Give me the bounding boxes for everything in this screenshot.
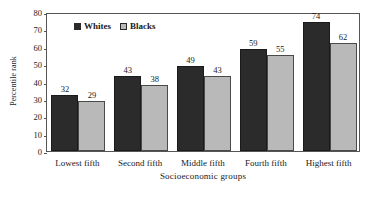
plot-area: 32294338494359557462 WhitesBlacks bbox=[46, 13, 360, 152]
bar-wrap: 38 bbox=[141, 14, 168, 151]
bar-wrap: 29 bbox=[78, 14, 105, 151]
bar-value-label: 62 bbox=[330, 32, 357, 42]
bar-value-label: 43 bbox=[204, 65, 231, 75]
bar-wrap: 74 bbox=[303, 14, 330, 151]
bar-value-label: 32 bbox=[51, 84, 78, 94]
legend-label: Whites bbox=[84, 22, 111, 31]
y-tick-label: 20 bbox=[22, 112, 42, 122]
bar-blacks-1[interactable] bbox=[141, 85, 168, 151]
y-tick-label: 30 bbox=[22, 95, 42, 105]
y-tick-mark bbox=[44, 14, 47, 15]
legend-entry-whites[interactable]: Whites bbox=[74, 22, 111, 31]
x-tick-label-4: Highest fifth bbox=[297, 157, 360, 169]
bar-blacks-3[interactable] bbox=[267, 55, 294, 151]
bar-wrap: 55 bbox=[267, 14, 294, 151]
bar-group: 7462 bbox=[303, 14, 357, 151]
x-axis-title: Socioeconomic groups bbox=[46, 170, 360, 182]
bar-group: 4943 bbox=[177, 14, 231, 151]
y-axis-title: Percentile rank bbox=[8, 26, 20, 136]
bar-whites-2[interactable] bbox=[177, 66, 204, 151]
bar-whites-4[interactable] bbox=[303, 22, 330, 151]
bar-value-label: 49 bbox=[177, 55, 204, 65]
bar-wrap: 43 bbox=[114, 14, 141, 151]
y-tick-label: 50 bbox=[22, 60, 42, 70]
bar-group: 4338 bbox=[114, 14, 168, 151]
bar-value-label: 43 bbox=[114, 65, 141, 75]
plot-inner: 32294338494359557462 WhitesBlacks bbox=[47, 14, 359, 151]
y-tick-mark bbox=[44, 84, 47, 85]
y-tick-label: 40 bbox=[22, 78, 42, 88]
bar-whites-0[interactable] bbox=[51, 95, 78, 151]
bar-wrap: 59 bbox=[240, 14, 267, 151]
bar-wrap: 62 bbox=[330, 14, 357, 151]
y-tick-mark bbox=[44, 136, 47, 137]
x-axis-tick-labels: Lowest fifthSecond fifthMiddle fifthFour… bbox=[46, 157, 360, 171]
bar-value-label: 55 bbox=[267, 44, 294, 54]
bar-value-label: 74 bbox=[303, 11, 330, 21]
light-gray-square-swatch bbox=[120, 23, 127, 30]
legend-entry-blacks[interactable]: Blacks bbox=[120, 22, 156, 31]
bar-value-label: 29 bbox=[78, 90, 105, 100]
black-square-swatch bbox=[74, 23, 81, 30]
bar-wrap: 32 bbox=[51, 14, 78, 151]
y-tick-mark bbox=[44, 101, 47, 102]
bar-blacks-0[interactable] bbox=[78, 101, 105, 151]
bar-group: 3229 bbox=[51, 14, 105, 151]
y-tick-mark bbox=[44, 49, 47, 50]
y-tick-label: 0 bbox=[22, 147, 42, 157]
bar-group: 5955 bbox=[240, 14, 294, 151]
bar-wrap: 43 bbox=[204, 14, 231, 151]
y-tick-label: 80 bbox=[22, 8, 42, 18]
y-tick-mark bbox=[44, 31, 47, 32]
x-tick-label-2: Middle fifth bbox=[172, 157, 235, 169]
bar-value-label: 38 bbox=[141, 74, 168, 84]
y-tick-mark bbox=[44, 153, 47, 154]
bar-whites-1[interactable] bbox=[114, 76, 141, 151]
y-axis-tick-labels: 01020304050607080 bbox=[22, 8, 42, 158]
y-tick-label: 70 bbox=[22, 25, 42, 35]
bar-blacks-2[interactable] bbox=[204, 76, 231, 151]
y-tick-label: 10 bbox=[22, 130, 42, 140]
bar-whites-3[interactable] bbox=[240, 49, 267, 152]
y-tick-label: 60 bbox=[22, 43, 42, 53]
bar-blacks-4[interactable] bbox=[330, 43, 357, 151]
x-tick-label-1: Second fifth bbox=[109, 157, 172, 169]
y-tick-mark bbox=[44, 66, 47, 67]
bar-value-label: 59 bbox=[240, 38, 267, 48]
chart-legend: WhitesBlacks bbox=[71, 21, 159, 32]
bars-layer: 32294338494359557462 bbox=[47, 14, 359, 151]
x-tick-label-0: Lowest fifth bbox=[46, 157, 109, 169]
x-tick-label-3: Fourth fifth bbox=[234, 157, 297, 169]
y-tick-mark bbox=[44, 118, 47, 119]
bar-chart-figure: Percentile rank 01020304050607080 322943… bbox=[0, 0, 378, 200]
legend-label: Blacks bbox=[130, 22, 156, 31]
bar-wrap: 49 bbox=[177, 14, 204, 151]
